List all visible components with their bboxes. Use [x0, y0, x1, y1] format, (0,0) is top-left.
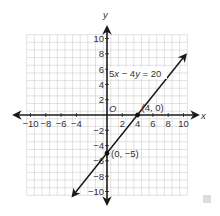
x-tick-label: 4	[135, 118, 140, 129]
y-tick-label: 4	[99, 79, 104, 90]
x-tick-label: 6	[150, 118, 155, 129]
coordinate-plane: −10−8−6−4246810108642−2−4−6−8−10 5x − 4y…	[0, 0, 220, 216]
origin-label: O	[109, 103, 117, 114]
x-tick-label: 2	[120, 118, 125, 129]
equation-label: 5x − 4y = 20	[109, 68, 161, 79]
point-marker	[135, 113, 140, 118]
x-tick-label: −8	[40, 118, 51, 129]
y-tick-label: 10	[93, 33, 104, 44]
y-tick-label: −8	[93, 171, 104, 182]
x-tick-label: 10	[178, 118, 189, 129]
point-label: (4, 0)	[142, 102, 164, 113]
x-axis-label: x	[200, 110, 207, 121]
y-tick-label: 6	[99, 64, 104, 75]
y-axis-label: y	[102, 9, 109, 20]
y-tick-label: −10	[88, 186, 104, 197]
y-tick-label: −2	[93, 125, 104, 136]
corner-marker	[203, 195, 211, 203]
y-tick-label: −4	[93, 140, 104, 151]
point-label: (0, −5)	[111, 148, 139, 159]
x-tick-label: 8	[166, 118, 171, 129]
x-tick-label: −4	[71, 118, 82, 129]
x-tick-label: −10	[22, 118, 38, 129]
y-tick-label: 8	[99, 48, 104, 59]
y-tick-label: 2	[99, 94, 104, 105]
x-tick-label: −6	[56, 118, 67, 129]
point-marker	[105, 151, 110, 156]
